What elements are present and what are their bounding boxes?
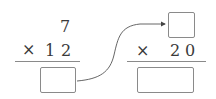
left-answer-box[interactable] <box>40 67 76 93</box>
right-operator: × <box>136 43 149 59</box>
right-answer-box[interactable] <box>137 67 194 93</box>
right-multiplier-ones: 0 <box>185 43 195 59</box>
right-divider-line <box>127 61 206 62</box>
left-multiplier-tens: 1 <box>45 43 55 59</box>
left-divider-line <box>15 61 80 62</box>
left-multiplicand: 7 <box>60 19 70 35</box>
right-multiplicand-box[interactable] <box>168 12 195 38</box>
right-multiplier-tens: 2 <box>170 43 180 59</box>
left-multiplier-ones: 2 <box>61 43 71 59</box>
left-operator: × <box>22 42 35 58</box>
